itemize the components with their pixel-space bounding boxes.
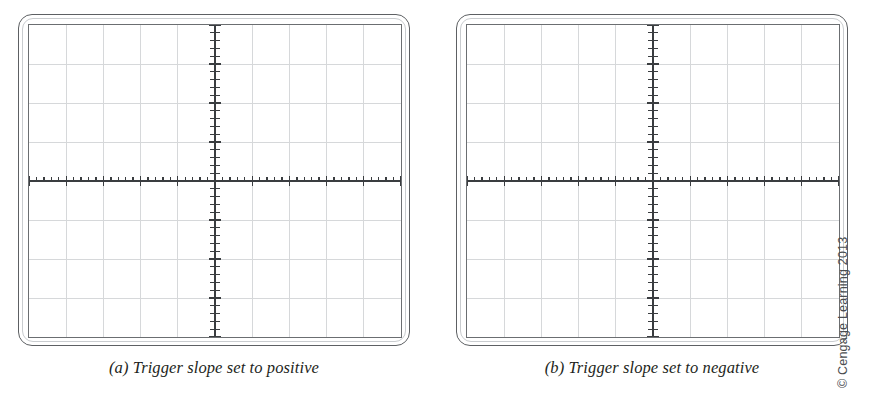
panel-caption-b: (b) Trigger slope set to negative	[456, 358, 848, 378]
axes-b	[467, 25, 839, 337]
graticule-a	[29, 25, 401, 337]
copyright-credit: © Cengage Learning 2013	[836, 188, 850, 388]
panel-caption-a: (a) Trigger slope set to positive	[18, 358, 410, 378]
scope-screen-b	[466, 24, 840, 338]
graticule-b	[467, 25, 839, 337]
scope-bezel-b	[456, 14, 848, 346]
oscilloscope-panel-a	[18, 14, 410, 346]
oscilloscope-panel-b	[456, 14, 848, 346]
scope-screen-a	[28, 24, 402, 338]
axes-a	[29, 25, 401, 337]
scope-bezel-a	[18, 14, 410, 346]
figure-root: (a) Trigger slope set to positive (b) Tr…	[0, 0, 877, 413]
